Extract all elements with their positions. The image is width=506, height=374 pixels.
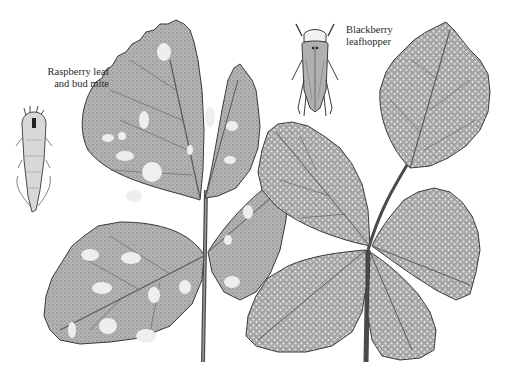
botanical-illustration — [0, 0, 506, 374]
raspberry-leaflet-top-right — [205, 64, 260, 198]
mite-icon — [16, 106, 52, 212]
leafhopper-label-line1: Blackberry — [346, 24, 393, 36]
illustration-canvas: Raspberry leaf and bud mite Blackberry l… — [0, 0, 506, 374]
mite-label-line2: and bud mite — [31, 78, 109, 90]
leafhopper-icon — [292, 24, 338, 116]
leafhopper-label: Blackberry leafhopper — [346, 24, 393, 48]
leafhopper-label-line2: leafhopper — [346, 36, 393, 48]
blackberry-leaflet-top — [380, 22, 490, 168]
mite-label: Raspberry leaf and bud mite — [31, 66, 109, 90]
mite-label-line1: Raspberry leaf — [31, 66, 109, 78]
blackberry-plant — [246, 22, 490, 362]
